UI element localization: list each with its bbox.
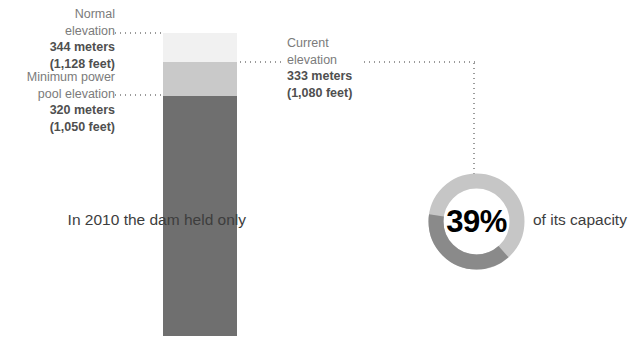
bar-segment-buffer [163,62,237,96]
infographic-canvas: Normal elevation 344 meters (1,128 feet)… [0,0,643,350]
capacity-sentence-prefix: In 2010 the dam held only [68,211,246,229]
label-minimum-pool-elevation: Minimum power pool elevation 320 meters … [27,69,115,135]
donut-percentage-label: 39% [428,173,525,270]
label-current-feet: (1,080 feet) [287,85,352,102]
label-minpool-line1: Minimum power [27,69,115,86]
leader-line-normal-elevation [113,32,165,34]
label-normal-line1: Normal [50,6,115,23]
label-minpool-meters: 320 meters [27,102,115,119]
capacity-donut-chart: 39% [428,173,525,270]
label-current-line2: elevation [287,52,352,69]
label-normal-line2: elevation [50,23,115,40]
label-normal-elevation: Normal elevation 344 meters (1,128 feet) [50,6,115,72]
bar-segment-above-current [163,33,237,62]
label-minpool-line2: pool elevation [27,86,115,103]
label-current-line1: Current [287,35,352,52]
capacity-sentence-suffix: of its capacity [533,211,627,229]
leader-line-current-right [362,61,475,63]
leader-line-minimum-pool [113,94,164,96]
leader-line-current-drop [473,61,475,174]
label-current-meters: 333 meters [287,68,352,85]
label-normal-meters: 344 meters [50,39,115,56]
leader-line-current-left [238,61,285,63]
label-minpool-feet: (1,050 feet) [27,119,115,136]
label-current-elevation: Current elevation 333 meters (1,080 feet… [287,35,352,101]
